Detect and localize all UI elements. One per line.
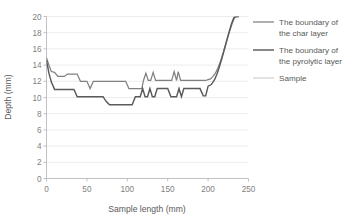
- y-tick-label-2: 2: [37, 158, 42, 167]
- legend-label-1-line1: The boundary of: [279, 46, 339, 55]
- axis-lines: [44, 17, 249, 182]
- y-tick-label-16: 16: [32, 45, 42, 54]
- x-axis-title: Sample length (mm): [108, 204, 186, 214]
- x-tick-label-150: 150: [161, 185, 175, 194]
- y-axis-tick-labels: 02468101214161820: [32, 13, 42, 184]
- y-tick-label-18: 18: [32, 29, 42, 38]
- gridlines: [47, 17, 249, 163]
- y-tick-label-8: 8: [37, 110, 42, 119]
- y-tick-label-6: 6: [37, 126, 42, 135]
- legend-label-1-line2: the pyrolytic layer: [279, 57, 342, 66]
- x-tick-label-250: 250: [242, 185, 256, 194]
- y-tick-label-4: 4: [37, 142, 42, 151]
- y-tick-label-10: 10: [32, 94, 42, 103]
- x-axis-tick-labels: 050100150200250: [44, 185, 256, 194]
- y-axis-title: Depth (mm): [3, 74, 13, 119]
- y-tick-label-20: 20: [32, 13, 42, 22]
- legend-label-0-line2: the char layer: [279, 29, 328, 38]
- legend-label-0-line1: The boundary of: [279, 18, 339, 27]
- y-tick-label-14: 14: [32, 61, 42, 70]
- legend-label-2-line1: Sample: [279, 74, 307, 83]
- chart-legend: The boundary ofthe char layerThe boundar…: [253, 18, 342, 83]
- data-series-layer: [47, 17, 239, 105]
- series-line-char-layer: [47, 17, 239, 89]
- x-tick-label-0: 0: [44, 185, 49, 194]
- chart-container: 02468101214161820 050100150200250 Depth …: [0, 0, 356, 220]
- x-tick-label-50: 50: [82, 185, 92, 194]
- line-chart: 02468101214161820 050100150200250 Depth …: [0, 0, 356, 220]
- x-tick-label-200: 200: [201, 185, 215, 194]
- series-line-pyrolytic-layer: [47, 17, 239, 105]
- y-tick-label-12: 12: [32, 77, 42, 86]
- x-tick-label-100: 100: [120, 185, 134, 194]
- y-tick-label-0: 0: [37, 175, 42, 184]
